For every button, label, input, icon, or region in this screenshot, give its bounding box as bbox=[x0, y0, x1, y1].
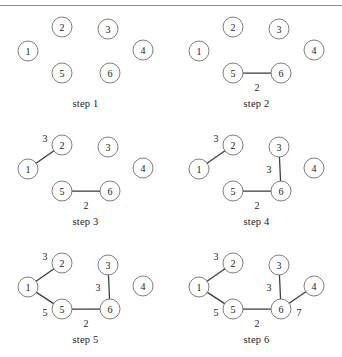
node-label-6: 6 bbox=[279, 304, 284, 315]
panel-step-2: 2123456step 2 bbox=[171, 0, 342, 118]
node-label-1: 1 bbox=[197, 164, 202, 175]
node-label-4: 4 bbox=[141, 163, 146, 174]
node-label-4: 4 bbox=[141, 45, 146, 56]
node-2: 2 bbox=[52, 253, 72, 273]
node-2: 2 bbox=[223, 17, 243, 37]
node-4: 4 bbox=[304, 40, 324, 60]
node-label-4: 4 bbox=[312, 281, 317, 292]
node-4: 4 bbox=[133, 158, 153, 178]
node-label-4: 4 bbox=[312, 45, 317, 56]
node-label-1: 1 bbox=[197, 282, 202, 293]
node-6: 6 bbox=[100, 299, 120, 319]
caption-step-5: step 5 bbox=[0, 334, 171, 345]
edge-1-5 bbox=[36, 292, 55, 304]
caption-step-1: step 1 bbox=[0, 98, 171, 109]
node-label-2: 2 bbox=[231, 22, 236, 33]
node-6: 6 bbox=[271, 63, 291, 83]
node-label-5: 5 bbox=[231, 186, 236, 197]
node-1: 1 bbox=[18, 159, 38, 179]
edge-weight-5-6: 2 bbox=[255, 318, 260, 329]
node-4: 4 bbox=[304, 158, 324, 178]
node-6: 6 bbox=[271, 299, 291, 319]
node-label-5: 5 bbox=[231, 304, 236, 315]
node-label-5: 5 bbox=[60, 304, 65, 315]
edge-3-6 bbox=[279, 156, 280, 182]
node-label-6: 6 bbox=[108, 186, 113, 197]
panel-step-4: 233123456step 4 bbox=[171, 118, 342, 236]
edge-weight-3-6: 3 bbox=[96, 282, 101, 293]
node-2: 2 bbox=[52, 17, 72, 37]
node-label-3: 3 bbox=[106, 24, 111, 35]
edge-weight-1-5: 5 bbox=[214, 307, 219, 318]
edge-3-6 bbox=[279, 274, 280, 300]
node-2: 2 bbox=[223, 135, 243, 155]
edge-weight-5-6: 2 bbox=[255, 200, 260, 211]
node-1: 1 bbox=[18, 277, 38, 297]
node-1: 1 bbox=[189, 41, 209, 61]
node-5: 5 bbox=[52, 181, 72, 201]
node-label-3: 3 bbox=[277, 142, 282, 153]
node-5: 5 bbox=[223, 299, 243, 319]
edge-1-2 bbox=[206, 150, 225, 164]
edge-weight-5-6: 2 bbox=[255, 82, 260, 93]
edge-1-5 bbox=[207, 292, 226, 304]
node-label-5: 5 bbox=[60, 186, 65, 197]
edge-weight-5-6: 2 bbox=[84, 318, 89, 329]
edge-weight-1-2: 3 bbox=[214, 133, 219, 144]
node-label-6: 6 bbox=[108, 68, 113, 79]
edge-weight-6-4: 7 bbox=[297, 307, 302, 318]
node-4: 4 bbox=[133, 276, 153, 296]
caption-step-2: step 2 bbox=[171, 98, 342, 109]
node-label-3: 3 bbox=[277, 260, 282, 271]
node-label-2: 2 bbox=[60, 258, 65, 269]
node-label-3: 3 bbox=[106, 142, 111, 153]
edge-weight-3-6: 3 bbox=[267, 282, 272, 293]
node-label-4: 4 bbox=[141, 281, 146, 292]
node-3: 3 bbox=[269, 255, 289, 275]
node-4: 4 bbox=[304, 276, 324, 296]
node-6: 6 bbox=[271, 181, 291, 201]
caption-step-6: step 6 bbox=[171, 334, 342, 345]
panel-step-3: 23123456step 3 bbox=[0, 118, 171, 236]
node-3: 3 bbox=[269, 137, 289, 157]
node-3: 3 bbox=[98, 255, 118, 275]
node-1: 1 bbox=[189, 159, 209, 179]
node-1: 1 bbox=[18, 41, 38, 61]
node-1: 1 bbox=[189, 277, 209, 297]
panel-step-6: 23357123456step 6 bbox=[171, 236, 342, 354]
node-label-4: 4 bbox=[312, 163, 317, 174]
node-label-2: 2 bbox=[60, 140, 65, 151]
edge-weight-5-6: 2 bbox=[84, 200, 89, 211]
node-label-6: 6 bbox=[279, 186, 284, 197]
node-6: 6 bbox=[100, 63, 120, 83]
node-3: 3 bbox=[269, 19, 289, 39]
edge-weight-1-2: 3 bbox=[43, 251, 48, 262]
node-2: 2 bbox=[52, 135, 72, 155]
panel-step-1: 123456step 1 bbox=[0, 0, 171, 118]
node-label-2: 2 bbox=[60, 22, 65, 33]
panel-step-5: 2335123456step 5 bbox=[0, 236, 171, 354]
node-label-2: 2 bbox=[231, 140, 236, 151]
steps-figure: 123456step 12123456step 223123456step 32… bbox=[0, 0, 342, 357]
node-label-1: 1 bbox=[26, 282, 31, 293]
node-label-6: 6 bbox=[279, 68, 284, 79]
edge-weight-3-6: 3 bbox=[267, 164, 272, 175]
caption-step-3: step 3 bbox=[0, 216, 171, 227]
node-4: 4 bbox=[133, 40, 153, 60]
node-label-5: 5 bbox=[60, 68, 65, 79]
edge-weight-1-2: 3 bbox=[214, 251, 219, 262]
edge-3-6 bbox=[108, 274, 109, 300]
node-2: 2 bbox=[223, 253, 243, 273]
edge-6-4 bbox=[288, 291, 306, 304]
node-label-3: 3 bbox=[106, 260, 111, 271]
node-3: 3 bbox=[98, 19, 118, 39]
node-label-3: 3 bbox=[277, 24, 282, 35]
node-5: 5 bbox=[52, 299, 72, 319]
caption-step-4: step 4 bbox=[171, 216, 342, 227]
edge-1-2 bbox=[35, 150, 54, 164]
node-label-6: 6 bbox=[108, 304, 113, 315]
node-5: 5 bbox=[223, 63, 243, 83]
node-3: 3 bbox=[98, 137, 118, 157]
edge-1-2 bbox=[206, 268, 225, 282]
node-label-1: 1 bbox=[26, 164, 31, 175]
